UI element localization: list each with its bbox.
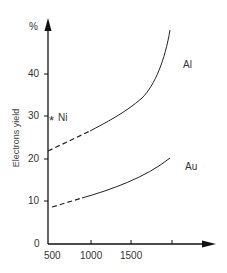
y-tick-label-0: 0 [34, 239, 40, 249]
chart-canvas [0, 0, 227, 273]
ni-marker-icon: * [49, 114, 54, 127]
y-axis-arrow-icon [45, 18, 52, 31]
y-tick-label-10: 10 [28, 196, 39, 206]
au-dashed-line [52, 198, 82, 207]
y-unit-label: % [29, 22, 38, 32]
x-tick-label-500: 500 [44, 251, 61, 261]
au-solid-line [82, 158, 170, 198]
y-tick-label-30: 30 [28, 111, 39, 121]
x-axis-arrow-icon [202, 241, 216, 248]
series-label-al: Al [183, 60, 192, 70]
al-dashed-line [48, 131, 90, 151]
y-axis-title: Electrons yield [11, 108, 21, 168]
y-tick-label-20: 20 [28, 154, 39, 164]
series-label-au: Au [185, 162, 197, 172]
ni-label: Ni [58, 113, 67, 123]
x-tick-label-1000: 1000 [80, 251, 102, 261]
y-tick-label-40: 40 [28, 69, 39, 79]
al-solid-line [90, 30, 170, 131]
x-tick-label-1500: 1500 [120, 251, 142, 261]
